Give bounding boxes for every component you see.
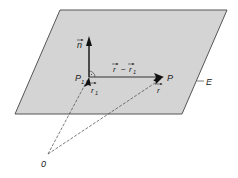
plane-label: E: [206, 77, 213, 87]
label-origin: 0: [41, 159, 46, 169]
svg-text:1: 1: [133, 69, 136, 75]
svg-text:r: r: [113, 65, 116, 74]
svg-text:1: 1: [81, 79, 84, 85]
svg-text:−: −: [121, 65, 126, 74]
label-P: P: [167, 73, 173, 83]
svg-text:1: 1: [95, 90, 98, 96]
plane-E: [15, 10, 227, 114]
plane-vector-diagram: E n P 1 r 1 r − r 1 P r: [0, 0, 238, 178]
right-angle-dot: [91, 74, 92, 75]
svg-text:n: n: [77, 40, 82, 50]
svg-text:r: r: [91, 86, 94, 95]
svg-text:r: r: [129, 65, 132, 74]
svg-text:r: r: [157, 86, 160, 95]
